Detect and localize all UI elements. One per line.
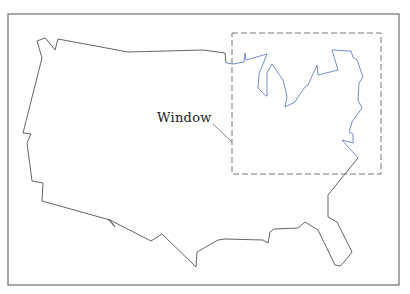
great-lakes-outline [226,50,363,158]
figure-frame [8,14,399,285]
us-outline [23,38,358,267]
leader-line [213,124,232,142]
window-label: Window [157,110,212,125]
map-diagram [0,0,410,294]
window-box [232,33,381,174]
